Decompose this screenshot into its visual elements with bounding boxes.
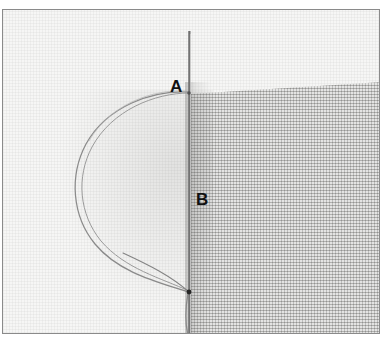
point-label-b: B [196, 191, 208, 208]
needle-fold-contact-point [187, 91, 191, 95]
thread-loop-left [75, 91, 189, 334]
needle-vertical [189, 31, 190, 334]
point-label-a: A [170, 78, 182, 95]
stitch-illustration-figure: A B [0, 0, 384, 342]
thread-highlight [89, 91, 186, 141]
needle-and-thread-artwork [3, 10, 380, 334]
figure-frame: A B [2, 9, 380, 334]
thread-strand-inner [82, 93, 189, 291]
thread-strand-outer [75, 92, 188, 292]
thread-tail-below [186, 293, 188, 334]
thread-entry-point [187, 290, 192, 295]
